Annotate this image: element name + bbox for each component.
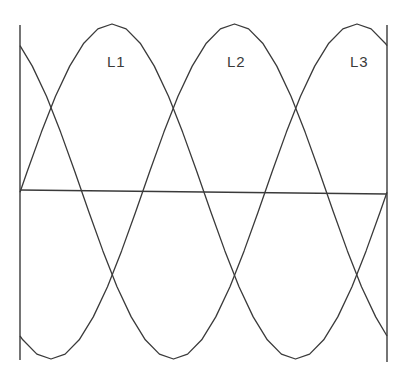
three-phase-diagram: L1 L2 L3: [0, 0, 407, 379]
wave-l1: [20, 24, 387, 359]
label-l2: L2: [227, 53, 246, 70]
label-l1: L1: [107, 53, 126, 70]
label-l3: L3: [350, 53, 369, 70]
